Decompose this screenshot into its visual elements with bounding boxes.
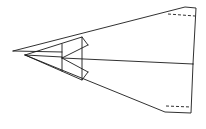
bottom-winglet-fold-dashed — [166, 106, 191, 107]
nose-inner-line — [25, 55, 62, 57]
top-winglet-fold-dashed — [168, 14, 195, 16]
paper-airplane-icon — [0, 0, 206, 129]
keel-fold-lower — [62, 58, 88, 72]
keel-fold-upper — [62, 45, 88, 58]
paper-airplane-diagram — [0, 0, 206, 129]
lower-wing-edge — [25, 55, 193, 113]
